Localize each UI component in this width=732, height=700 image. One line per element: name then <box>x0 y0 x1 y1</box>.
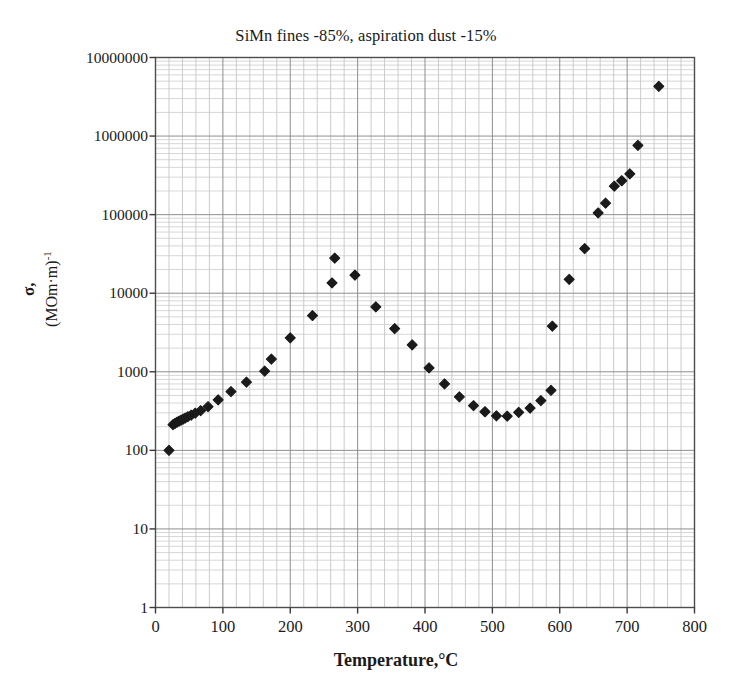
x-axis-tick-label: 0 <box>151 619 159 636</box>
chart-figure: SiMn fines -85%, aspiration dust -15% 11… <box>0 0 732 700</box>
y-axis-symbol: σ, <box>19 282 38 296</box>
x-axis-tick-labels: 0100200300400500600700800 <box>0 0 732 700</box>
x-axis-tick-label: 500 <box>480 619 505 636</box>
x-axis-tick-label: 400 <box>413 619 438 636</box>
y-axis-units-text: (MOm·m) <box>43 260 60 327</box>
y-axis-label: σ, (MOm·m)-1 <box>19 189 61 389</box>
y-axis-units: (MOm·m)-1 <box>38 189 61 389</box>
x-axis-tick-label: 600 <box>547 619 572 636</box>
x-axis-tick-label: 100 <box>211 619 236 636</box>
x-axis-tick-label: 300 <box>345 619 370 636</box>
x-axis-tick-label: 800 <box>682 619 707 636</box>
y-axis-units-exponent: -1 <box>41 251 53 260</box>
x-axis-label: Temperature,°C <box>0 650 732 671</box>
x-axis-tick-label: 200 <box>278 619 303 636</box>
x-axis-tick-label: 700 <box>615 619 640 636</box>
